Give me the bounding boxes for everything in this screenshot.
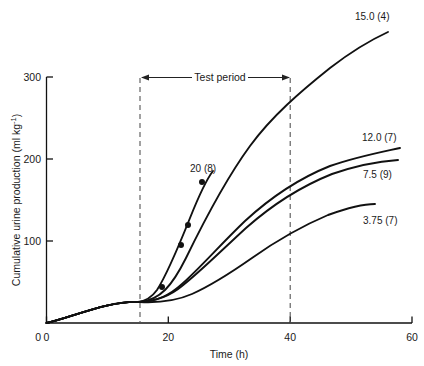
curve-7-5 [47, 160, 399, 323]
curve-12-0 [47, 148, 401, 323]
x-tick-label-40: 40 [284, 331, 296, 343]
series-label-3-75: 3.75 (7) [363, 215, 397, 226]
data-point [199, 179, 205, 185]
y-tick-label-200: 200 [23, 153, 41, 165]
x-tick-label-20: 20 [162, 331, 174, 343]
series-label-20: 20 (8) [190, 163, 216, 174]
y-tick-label-0: 0 [35, 331, 41, 343]
y-axis-title-close: ) [10, 114, 22, 118]
data-point [185, 222, 191, 228]
urine-production-chart: 300 200 100 0 0 20 40 60 Time (h) Cumula… [0, 0, 424, 366]
test-period-annotation: Test period [141, 71, 290, 83]
test-period-label: Test period [194, 71, 246, 83]
svg-text:Cumulative urine production (m: Cumulative urine production (ml kg-1) [9, 114, 22, 286]
y-tick-label-100: 100 [23, 235, 41, 247]
x-tick-label-60: 60 [406, 331, 418, 343]
series-label-7-5: 7.5 (9) [363, 169, 392, 180]
curve-20 [47, 171, 214, 323]
data-point [159, 284, 165, 290]
data-point [178, 242, 184, 248]
series-label-15-0: 15.0 (4) [355, 11, 389, 22]
x-tick-label-0: 0 [44, 331, 50, 343]
y-axis-title-main: Cumulative urine production (ml kg [10, 124, 22, 286]
test-period-arrowhead-left [141, 74, 149, 80]
curve-3-75 [47, 204, 376, 323]
y-axis-title-exponent: -1 [9, 117, 18, 124]
series-label-12-0: 12.0 (7) [362, 132, 396, 143]
x-axis-title: Time (h) [210, 348, 249, 360]
test-period-arrowhead-right [282, 74, 290, 80]
y-axis-title: Cumulative urine production (ml kg-1) [9, 114, 22, 286]
axes-group [47, 77, 413, 323]
chart-canvas: 300 200 100 0 0 20 40 60 Time (h) Cumula… [0, 0, 424, 366]
y-tick-label-300: 300 [23, 71, 41, 83]
